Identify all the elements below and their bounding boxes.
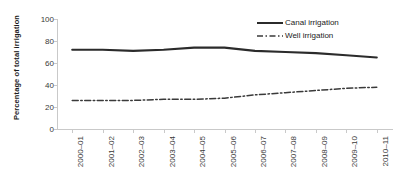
x-tick-label: 2009–10 (350, 136, 359, 180)
legend-label-canal: Canal irrigation (285, 18, 339, 27)
x-tick-label: 2006–07 (259, 136, 268, 180)
dash-dot-line-key (257, 32, 283, 40)
legend-item-well: Well irrigation (257, 29, 339, 42)
x-tick-mark (346, 129, 347, 133)
x-tick-mark (164, 129, 165, 133)
x-tick-label: 2002–03 (137, 136, 146, 180)
x-tick-mark (255, 129, 256, 133)
x-tick-label: 2008–09 (320, 136, 329, 180)
legend: Canal irrigation Well irrigation (257, 16, 339, 42)
x-tick-label: 2000–01 (76, 136, 85, 180)
series-line (72, 48, 377, 58)
legend-label-well: Well irrigation (285, 31, 333, 40)
x-tick-label: 2010–11 (381, 136, 390, 180)
solid-line-key (257, 19, 283, 27)
x-tick-mark (194, 129, 195, 133)
x-tick-mark (316, 129, 317, 133)
x-tick-mark (377, 129, 378, 133)
x-tick-mark (133, 129, 134, 133)
y-tick-label: 60 (24, 59, 54, 68)
x-tick-label: 2007–08 (289, 136, 298, 180)
line-chart: Percentage of total irrigation 020406080… (0, 0, 398, 186)
x-tick-label: 2003–04 (168, 136, 177, 180)
y-tick-label: 0 (24, 125, 54, 134)
legend-item-canal: Canal irrigation (257, 16, 339, 29)
x-tick-label: 2005–06 (229, 136, 238, 180)
series-line (72, 87, 377, 100)
x-tick-mark (285, 129, 286, 133)
x-tick-label: 2001–02 (107, 136, 116, 180)
y-tick-label: 100 (24, 15, 54, 24)
x-tick-mark (72, 129, 73, 133)
plot-area (57, 19, 392, 129)
x-tick-label: 2004–05 (198, 136, 207, 180)
y-axis-tick-labels: 020406080100 (20, 0, 54, 186)
y-tick-label: 80 (24, 37, 54, 46)
x-tick-mark (103, 129, 104, 133)
y-tick-label: 40 (24, 81, 54, 90)
x-tick-mark (225, 129, 226, 133)
series-lines (57, 19, 392, 129)
y-tick-label: 20 (24, 103, 54, 112)
